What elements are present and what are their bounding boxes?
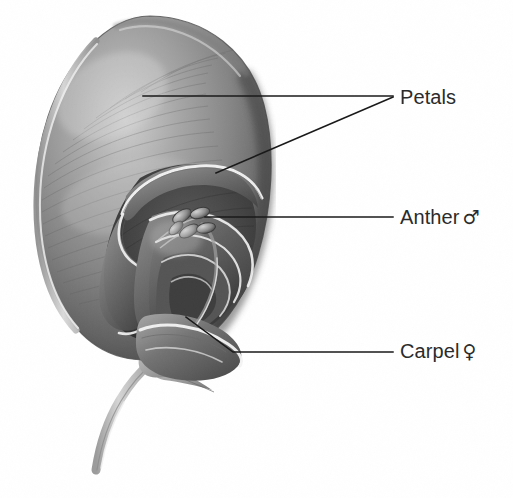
female-symbol-icon: ♀ [460,340,477,362]
label-anther-text: Anther [400,206,460,228]
label-carpel-text: Carpel [400,340,460,362]
flower-illustration [0,0,513,498]
label-anther: Anther♂ [400,207,480,227]
label-carpel: Carpel♀ [400,341,477,361]
label-petals-text: Petals [400,86,456,108]
label-petals-symbol [456,86,459,108]
flower-anatomy-figure: Petals Anther♂ Carpel♀ [0,0,513,498]
male-symbol-icon: ♂ [460,206,480,228]
flower-stem [96,362,153,470]
label-petals: Petals [400,87,459,107]
